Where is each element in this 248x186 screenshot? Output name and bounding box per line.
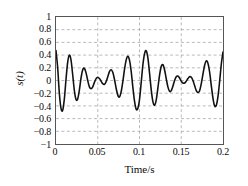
plot-svg [56,17,223,144]
y-tick-label: −0.6 [7,114,51,124]
y-tick-label: 0 [7,76,51,86]
x-tick-label: 0 [35,147,75,157]
y-tick-label: 1 [7,12,51,22]
y-tick-label: 0.6 [7,37,51,47]
y-tick-label: 0.2 [7,63,51,73]
y-tick-label: 0.4 [7,50,51,60]
plot-area [55,16,224,145]
x-tick-label: 0.1 [119,147,159,157]
y-tick-label: 0.8 [7,24,51,34]
chart-figure: s(t) 1 0.8 0.6 0.4 0.2 0 −0.2 −0.4 −0.6 … [0,0,248,186]
data-series-group [56,51,223,112]
x-tick-label: 0.2 [203,147,243,157]
y-tick-label: −0.8 [7,127,51,137]
data-line-s-of-t [56,51,223,112]
x-axis-title: Time/s [55,163,224,175]
y-tick-label: −0.4 [7,102,51,112]
y-tick-label: −0.2 [7,89,51,99]
x-tick-label: 0.05 [77,147,117,157]
x-tick-label: 0.15 [161,147,201,157]
